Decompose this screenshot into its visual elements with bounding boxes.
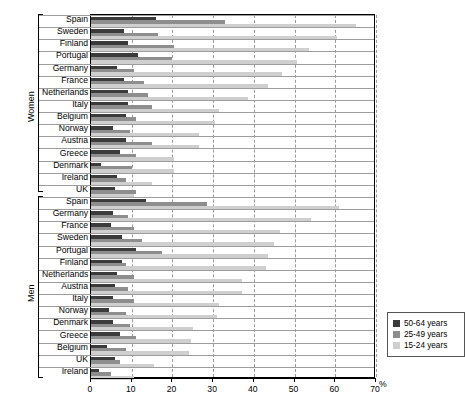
group-label-men: Men	[26, 258, 37, 328]
table-row	[91, 294, 374, 306]
x-axis-unit-label: %	[379, 379, 387, 389]
legend-swatch-25-49	[393, 331, 400, 338]
row-separator	[39, 367, 374, 368]
legend-item-15-24: 15-24 years	[393, 341, 459, 350]
legend-label-15-24: 15-24 years	[404, 341, 447, 350]
row-separator	[39, 124, 374, 125]
category-label-women-belgium: Belgium	[42, 112, 88, 121]
x-tick-30	[212, 378, 213, 382]
x-tick-70	[375, 378, 376, 382]
row-separator	[39, 355, 374, 356]
x-tick-60	[334, 378, 335, 382]
category-label-men-portugal: Portugal	[42, 246, 88, 255]
row-separator	[39, 136, 374, 137]
legend-swatch-50-64	[393, 320, 400, 327]
table-row	[91, 221, 374, 233]
row-separator	[39, 185, 374, 186]
table-row	[91, 51, 374, 63]
x-tick-10	[131, 378, 132, 382]
category-label-men-denmark: Denmark	[42, 318, 88, 327]
category-label-men-france: France	[42, 221, 88, 230]
table-row	[91, 148, 374, 160]
table-row	[91, 39, 374, 51]
row-separator	[39, 209, 374, 210]
x-tick-label-20: 20	[167, 384, 177, 394]
group-label-women: Women	[26, 62, 37, 152]
row-separator	[39, 197, 374, 198]
table-row	[91, 185, 374, 197]
x-tick-label-10: 10	[126, 384, 136, 394]
row-separator	[39, 51, 374, 52]
category-label-women-italy: Italy	[42, 100, 88, 109]
row-separator	[39, 15, 374, 16]
table-row	[91, 88, 374, 100]
x-tick-label-60: 60	[330, 384, 340, 394]
category-label-men-spain: Spain	[42, 197, 88, 206]
table-row	[91, 173, 374, 185]
row-separator	[39, 306, 374, 307]
row-separator	[39, 258, 374, 259]
table-row	[91, 282, 374, 294]
x-tick-label-0: 0	[88, 384, 93, 394]
category-label-women-greece: Greece	[42, 149, 88, 158]
category-label-men-italy: Italy	[42, 294, 88, 303]
table-row	[91, 209, 374, 221]
row-separator	[39, 294, 374, 295]
row-separator	[39, 343, 374, 344]
category-label-men-netherlands: Netherlands	[42, 270, 88, 279]
category-label-women-spain: Spain	[42, 15, 88, 24]
legend: 50-64 years 25-49 years 15-24 years	[387, 312, 465, 357]
table-row	[91, 64, 374, 76]
legend-item-25-49: 25-49 years	[393, 330, 459, 339]
table-row	[91, 330, 374, 342]
category-label-men-greece: Greece	[42, 331, 88, 340]
category-label-women-netherlands: Netherlands	[42, 88, 88, 97]
category-label-women-austria: Austria	[42, 136, 88, 145]
category-label-women-france: France	[42, 76, 88, 85]
category-label-men-germany: Germany	[42, 209, 88, 218]
gridline-70	[376, 15, 377, 377]
x-tick-label-50: 50	[289, 384, 299, 394]
table-row	[91, 318, 374, 330]
x-tick-label-40: 40	[248, 384, 258, 394]
legend-swatch-15-24	[393, 342, 400, 349]
row-separator	[39, 221, 374, 222]
row-separator	[39, 173, 374, 174]
x-axis	[90, 378, 375, 379]
category-label-women-uk: UK	[42, 185, 88, 194]
row-separator	[39, 76, 374, 77]
row-separator	[39, 282, 374, 283]
row-separator	[39, 64, 374, 65]
legend-label-25-49: 25-49 years	[404, 330, 447, 339]
category-label-men-belgium: Belgium	[42, 343, 88, 352]
category-label-women-portugal: Portugal	[42, 51, 88, 60]
row-separator	[39, 100, 374, 101]
row-separator	[39, 233, 374, 234]
plot-area: 50-64 years 25-49 years 15-24 years	[90, 14, 375, 378]
table-row	[91, 76, 374, 88]
row-separator	[39, 39, 374, 40]
category-label-women-sweden: Sweden	[42, 27, 88, 36]
row-separator	[39, 161, 374, 162]
table-row	[91, 27, 374, 39]
row-separator	[39, 27, 374, 28]
category-label-men-sweden: Sweden	[42, 233, 88, 242]
category-label-women-norway: Norway	[42, 124, 88, 133]
x-tick-label-30: 30	[207, 384, 217, 394]
x-tick-20	[171, 378, 172, 382]
table-row	[91, 246, 374, 258]
table-row	[91, 161, 374, 173]
table-row	[91, 136, 374, 148]
row-separator	[39, 148, 374, 149]
category-label-women-denmark: Denmark	[42, 161, 88, 170]
table-row	[91, 15, 374, 27]
table-row	[91, 100, 374, 112]
row-separator	[39, 112, 374, 113]
row-separator	[39, 88, 374, 89]
table-row	[91, 306, 374, 318]
x-tick-40	[253, 378, 254, 382]
legend-item-50-64: 50-64 years	[393, 319, 459, 328]
row-separator	[39, 246, 374, 247]
category-label-women-finland: Finland	[42, 39, 88, 48]
